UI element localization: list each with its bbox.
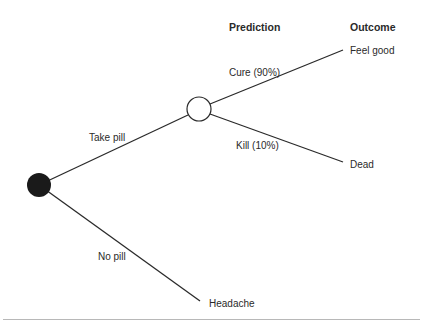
edge-no-pill <box>39 185 200 301</box>
outcome-dead: Dead <box>350 159 374 171</box>
decision-node <box>27 173 51 197</box>
prediction-header: Prediction <box>229 21 280 33</box>
kill-label: Kill (10%) <box>236 140 279 152</box>
take-pill-label: Take pill <box>89 132 125 144</box>
bottom-rule <box>3 319 420 320</box>
outcome-header: Outcome <box>350 21 396 33</box>
edge-take-pill <box>39 115 188 185</box>
edge-kill <box>210 114 343 162</box>
no-pill-label: No pill <box>98 251 126 263</box>
chance-node <box>187 97 211 121</box>
cure-label: Cure (90%) <box>229 67 280 79</box>
outcome-headache: Headache <box>209 298 255 310</box>
outcome-feel-good: Feel good <box>350 45 394 57</box>
